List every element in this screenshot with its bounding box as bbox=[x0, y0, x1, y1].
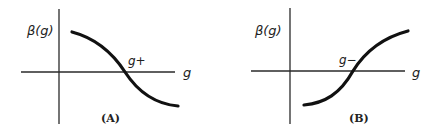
panel-a-y-axis-label: β(g) bbox=[26, 23, 54, 38]
panel-a-fixed-point-label: g+ bbox=[128, 54, 146, 68]
panel-a-label: (A) bbox=[101, 112, 120, 125]
panel-b-fixed-point-label: g− bbox=[339, 53, 357, 67]
panel-b-x-axis-label: g bbox=[412, 65, 420, 80]
panel-a-beta-curve bbox=[72, 32, 178, 106]
panel-a: β(g) g g+ (A) bbox=[21, 9, 191, 125]
panel-a-x-axis-label: g bbox=[183, 65, 191, 80]
panel-b-label: (B) bbox=[349, 112, 369, 125]
panel-b-y-axis-label: β(g) bbox=[254, 23, 282, 38]
beta-function-diagram: β(g) g g+ (A) β(g) g g− (B) bbox=[0, 0, 439, 132]
panel-b-beta-curve bbox=[304, 31, 408, 105]
panel-b: β(g) g g− (B) bbox=[251, 8, 420, 125]
